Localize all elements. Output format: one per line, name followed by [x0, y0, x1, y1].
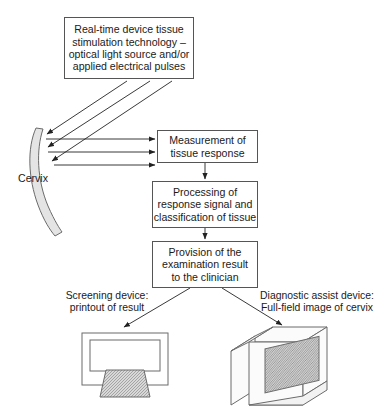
label-diagnostic-assist-device: Diagnostic assist device: Full-field ima… [247, 290, 387, 315]
cervix-to-measurement-arrows [46, 139, 155, 165]
label-screening-device: Screening device: printout of result [42, 290, 172, 315]
screening-device-shape [82, 333, 168, 397]
node-measurement: Measurement of tissue response [157, 130, 258, 163]
node-stimulation-technology: Real-time device tissue stimulation tech… [64, 17, 194, 79]
node-provision: Provision of the examination result to t… [152, 241, 258, 288]
node-processing: Processing of response signal and classi… [152, 181, 258, 228]
diagnostic-device-shape [231, 327, 327, 405]
stimulation-to-cervix-arrows [47, 81, 172, 161]
label-cervix: Cervix [8, 172, 58, 185]
diagram-canvas: Real-time device tissue stimulation tech… [0, 0, 387, 417]
